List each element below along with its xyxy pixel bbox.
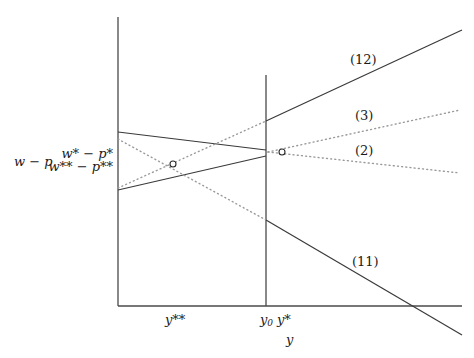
left-dotted-descending-line xyxy=(118,139,266,220)
label-line-11: (11) xyxy=(352,254,379,269)
upper-left-solid-line xyxy=(118,132,266,150)
x-tick-y0: y0 xyxy=(259,312,273,328)
label-line-2: (2) xyxy=(355,143,373,158)
equilibrium-point-star xyxy=(279,149,285,155)
line-11 xyxy=(266,220,462,335)
lower-left-solid-line xyxy=(118,156,266,190)
x-tick-star: y* xyxy=(276,312,291,327)
equilibrium-diagram: (12) (3) (2) (11) w − p w* − p* w** − p*… xyxy=(0,0,474,358)
y-tick-double-star: w** − p** xyxy=(48,159,113,174)
left-dotted-ascending-line xyxy=(118,121,266,188)
equilibrium-point-double-star xyxy=(170,161,176,167)
x-tick-y0-subscript: 0 xyxy=(267,318,273,328)
label-line-12: (12) xyxy=(350,52,377,67)
y-axis-label: w − p xyxy=(14,154,53,169)
x-tick-double-star: y** xyxy=(164,312,186,327)
x-axis-label: y xyxy=(285,332,294,347)
label-line-3: (3) xyxy=(355,108,373,123)
